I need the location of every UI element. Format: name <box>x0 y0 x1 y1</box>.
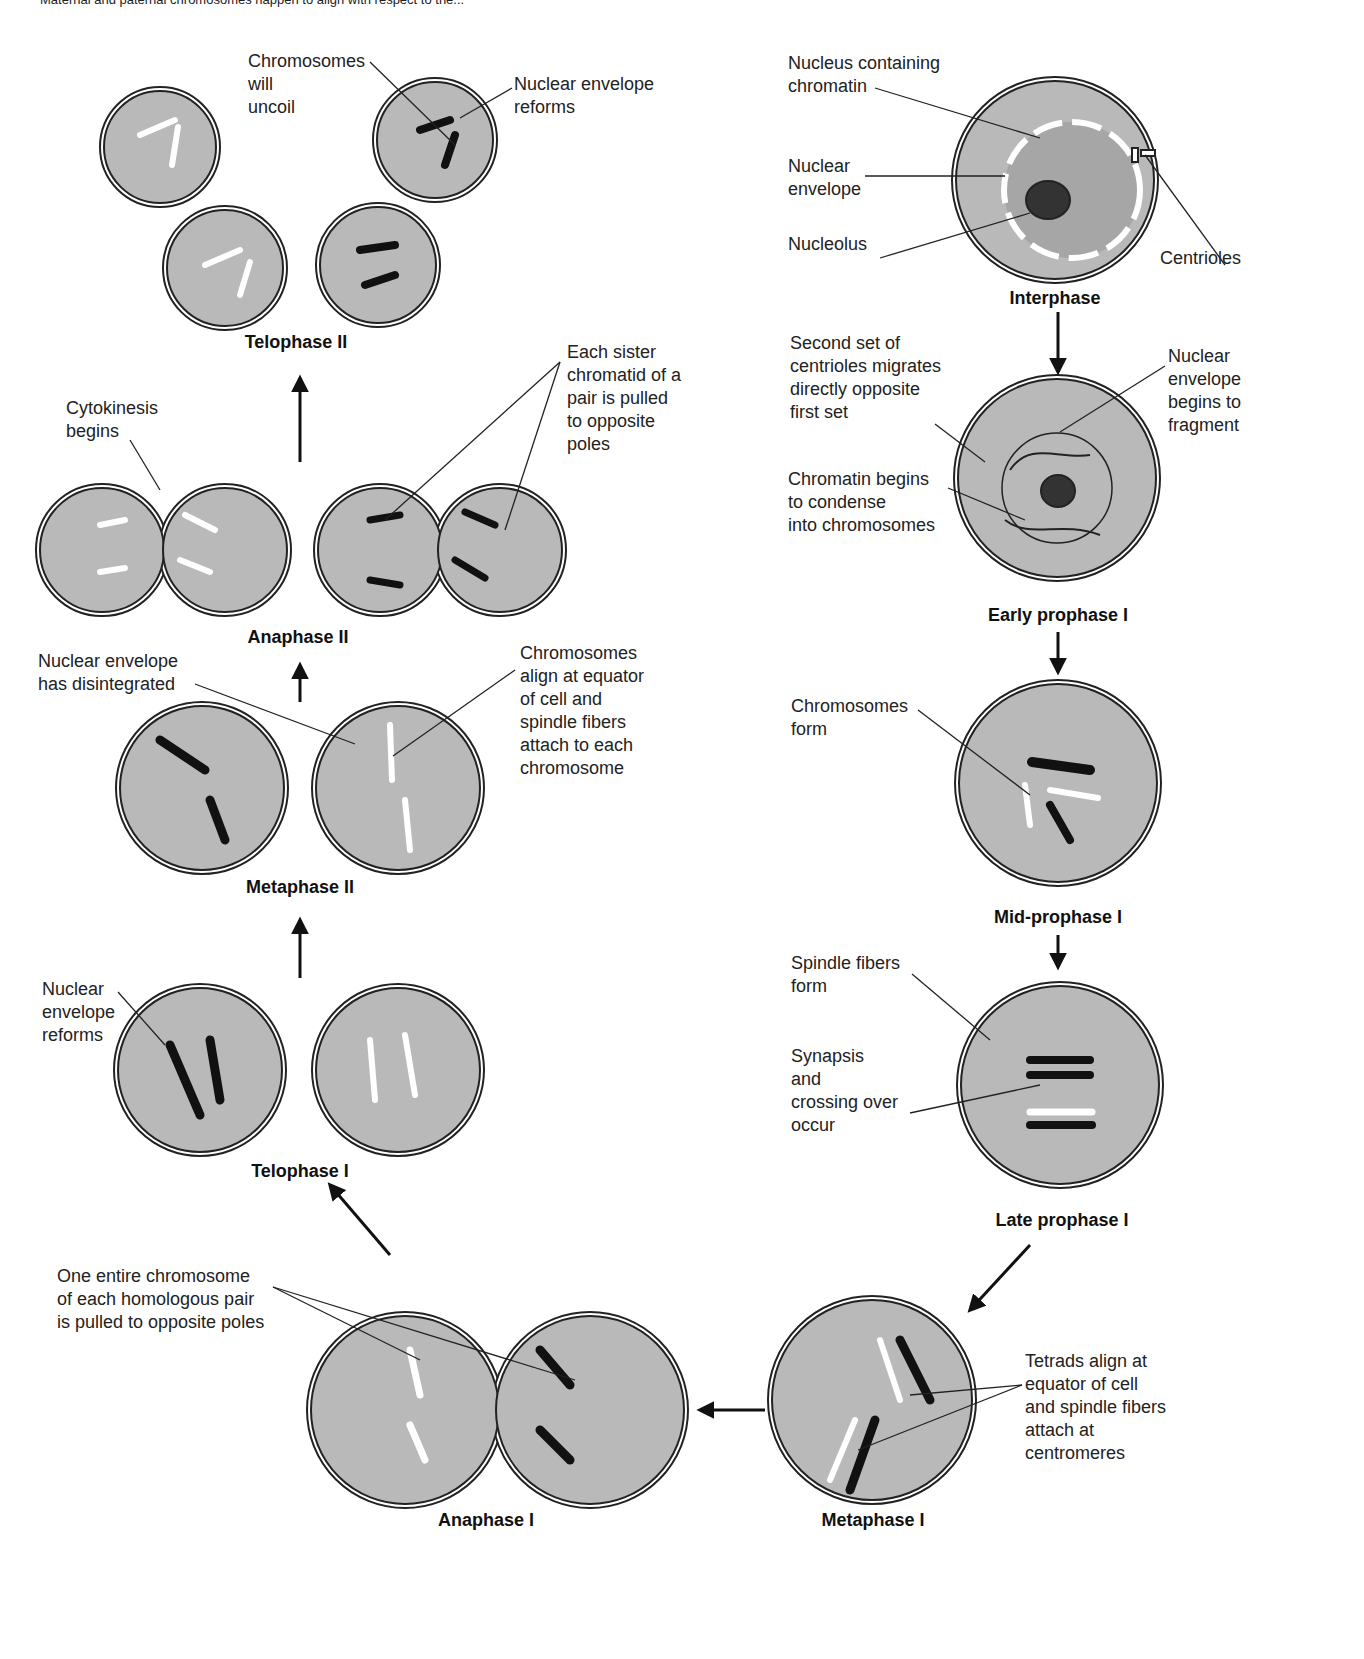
anaphase-2-cells <box>36 484 566 616</box>
early-prophase-1-cell <box>954 375 1160 581</box>
label-nuclear-envelope-reforms-t1: Nuclear envelope reforms <box>42 978 115 1047</box>
anaphase-1-cell <box>307 1312 688 1508</box>
label-cytokinesis: Cytokinesis begins <box>66 397 158 443</box>
title-metaphase-1: Metaphase I <box>821 1510 924 1531</box>
label-entire-chromosome: One entire chromosome of each homologous… <box>57 1265 264 1334</box>
label-second-set-centrioles: Second set of centrioles migrates direct… <box>790 332 941 424</box>
title-telophase-1: Telophase I <box>251 1161 349 1182</box>
label-nuclear-envelope: Nuclear envelope <box>788 155 861 201</box>
mid-prophase-1-cell <box>955 680 1161 886</box>
metaphase-1-cell <box>768 1296 976 1504</box>
title-interphase: Interphase <box>1009 288 1100 309</box>
label-chromosomes-align: Chromosomes align at equator of cell and… <box>520 642 644 780</box>
label-chromatin-condense: Chromatin begins to condense into chromo… <box>788 468 935 537</box>
title-anaphase-2: Anaphase II <box>247 627 348 648</box>
label-synapsis: Synapsis and crossing over occur <box>791 1045 898 1137</box>
meiosis-diagram: Maternal and paternal chromosomes happen… <box>0 0 1364 1659</box>
telophase-1-cells <box>114 984 484 1156</box>
label-chromosomes-uncoil: Chromosomes will uncoil <box>248 50 365 119</box>
title-anaphase-1: Anaphase I <box>438 1510 534 1531</box>
label-nuclear-envelope-reforms-t2: Nuclear envelope reforms <box>514 73 654 119</box>
label-spindle-fibers-form: Spindle fibers form <box>791 952 900 998</box>
caption-fragment: Maternal and paternal chromosomes happen… <box>40 0 464 7</box>
label-nucleolus: Nucleolus <box>788 233 867 256</box>
label-tetrads-align: Tetrads align at equator of cell and spi… <box>1025 1350 1166 1465</box>
title-metaphase-2: Metaphase II <box>246 877 354 898</box>
title-early-prophase-1: Early prophase I <box>988 605 1128 626</box>
title-mid-prophase-1: Mid-prophase I <box>994 907 1122 928</box>
label-chromosomes-form: Chromosomes form <box>791 695 908 741</box>
label-nuclear-envelope-disintegrated: Nuclear envelope has disintegrated <box>38 650 178 696</box>
interphase-cell <box>952 77 1158 283</box>
late-prophase-1-cell <box>957 982 1163 1188</box>
label-nucleus-chromatin: Nucleus containing chromatin <box>788 52 940 98</box>
label-centrioles: Centrioles <box>1160 247 1241 270</box>
label-nuclear-envelope-fragment: Nuclear envelope begins to fragment <box>1168 345 1241 437</box>
title-telophase-2: Telophase II <box>245 332 348 353</box>
title-late-prophase-1: Late prophase I <box>995 1210 1128 1231</box>
label-sister-chromatid: Each sister chromatid of a pair is pulle… <box>567 341 681 456</box>
metaphase-2-cells <box>116 702 484 874</box>
